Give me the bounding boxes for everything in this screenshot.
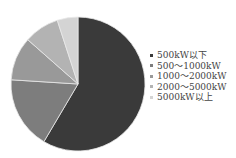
legend-label-4: 5000kW以上 [157, 92, 213, 103]
legend-swatch-2 [150, 75, 153, 78]
legend-swatch-1 [150, 64, 153, 67]
legend-swatch-3 [150, 85, 153, 88]
chart-legend: 500kW以下 500～1000kW 1000～2000kW 2000～5000… [150, 50, 227, 103]
legend-label-1: 500～1000kW [157, 61, 221, 72]
legend-swatch-4 [150, 96, 153, 99]
legend-label-2: 1000～2000kW [157, 71, 227, 82]
legend-label-0: 500kW以下 [157, 50, 207, 61]
legend-swatch-0 [150, 54, 153, 57]
legend-item-0: 500kW以下 [150, 50, 227, 61]
legend-label-3: 2000～5000kW [157, 82, 227, 93]
legend-item-4: 5000kW以上 [150, 92, 227, 103]
legend-item-1: 500～1000kW [150, 61, 227, 72]
legend-item-3: 2000～5000kW [150, 82, 227, 93]
legend-item-2: 1000～2000kW [150, 71, 227, 82]
